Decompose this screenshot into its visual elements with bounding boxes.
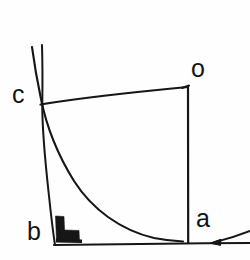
- vertex-label-b: b: [27, 219, 41, 244]
- vertex-label-c: c: [12, 82, 25, 107]
- geometric-figure: o c a b: [0, 0, 250, 260]
- vertex-label-a: a: [196, 206, 210, 231]
- vertex-label-o: o: [191, 56, 205, 81]
